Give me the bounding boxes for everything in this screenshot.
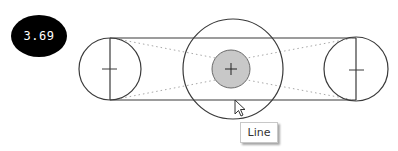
- measurement-value: 3.69: [24, 29, 55, 43]
- mouse-pointer-icon: [234, 99, 248, 119]
- measurement-badge: 3.69: [11, 15, 67, 57]
- snap-tooltip: Line: [240, 122, 278, 143]
- tooltip-label: Line: [248, 126, 271, 139]
